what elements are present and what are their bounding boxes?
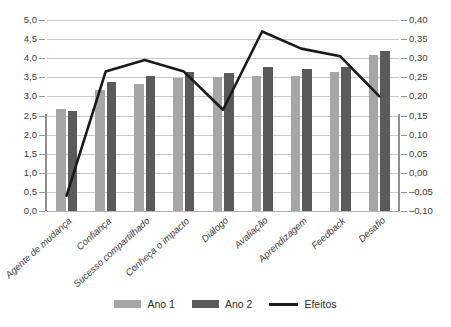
category-label: Diálogo — [199, 215, 230, 245]
right-axis-tick-label: 0,40 — [409, 15, 428, 25]
bar-ano-1 — [213, 77, 223, 211]
left-axis-tick-label: 2,5 — [24, 111, 37, 121]
legend-label: Ano 1 — [147, 299, 174, 310]
right-axis-tick-mark — [401, 39, 407, 40]
left-axis-tick-mark — [39, 135, 45, 136]
bar-ano-2 — [224, 73, 234, 211]
legend-swatch-swatch-dark-gray — [192, 300, 219, 308]
legend-item[interactable]: Ano 2 — [192, 299, 252, 310]
left-axis-tick-mark — [39, 192, 45, 193]
right-axis-tick-label: 0,05 — [409, 149, 428, 159]
category-label: Avaliação — [232, 215, 270, 251]
category-label: Sucesso compartilhado — [71, 215, 152, 289]
right-axis-tick-label: 0,15 — [409, 111, 428, 121]
bar-ano-2 — [68, 111, 78, 211]
bar-ano-2 — [185, 72, 195, 211]
left-axis-tick-mark — [39, 77, 45, 78]
right-axis-tick-label: 0,35 — [409, 34, 428, 44]
left-axis-tick-mark — [39, 39, 45, 40]
legend-swatch-swatch-light-gray — [114, 300, 141, 308]
category-label: Agente de mudança — [3, 215, 74, 280]
right-axis-tick-mark — [401, 135, 407, 136]
bar-ano-1 — [173, 78, 183, 211]
left-axis-tick-label: 4,0 — [24, 53, 37, 63]
chart-legend: Ano 1Ano 2Efeitos — [0, 296, 451, 312]
category-label: Confiança — [74, 215, 113, 252]
category-axis-labels: Agente de mudançaConfiançaSucesso compar… — [0, 211, 451, 295]
left-axis-tick-label: 3,0 — [24, 91, 37, 101]
right-axis-tick-mark — [401, 116, 407, 117]
right-axis-tick-label: 0,30 — [409, 53, 428, 63]
left-axis-tick-label: 2,0 — [24, 130, 37, 140]
legend-label: Ano 2 — [225, 299, 252, 310]
bar-ano-1 — [369, 55, 379, 211]
bar-ano-2 — [146, 76, 156, 211]
left-axis-tick-label: 5,0 — [24, 15, 37, 25]
bar-ano-1 — [330, 72, 340, 211]
bar-ano-1 — [56, 109, 66, 211]
bar-ano-2 — [380, 51, 390, 211]
right-axis-tick-label: 0,10 — [409, 130, 428, 140]
right-axis-tick-label: 0,25 — [409, 72, 428, 82]
chart-figure: 0,00,51,01,52,02,53,03,54,04,55,0 –0,10–… — [0, 0, 451, 327]
left-axis-tick-mark — [39, 173, 45, 174]
bar-ano-2 — [302, 69, 312, 211]
right-axis-tick-label: –0,05 — [409, 187, 433, 197]
left-axis-tick-label: 4,5 — [24, 34, 37, 44]
legend-item[interactable]: Efeitos — [269, 299, 336, 310]
right-axis-tick-label: 0,00 — [409, 168, 428, 178]
legend-swatch-line-black — [269, 303, 298, 306]
right-axis-tick-mark — [401, 154, 407, 155]
bar-ano-1 — [134, 84, 144, 211]
left-axis-tick-mark — [39, 20, 45, 21]
left-axis-tick-label: 1,5 — [24, 149, 37, 159]
bar-ano-1 — [252, 76, 262, 211]
bar-ano-2 — [107, 82, 117, 211]
right-axis-tick-mark — [401, 96, 407, 97]
left-axis-tick-label: 3,5 — [24, 72, 37, 82]
right-axis-tick-label: 0,20 — [409, 91, 428, 101]
bar-ano-1 — [291, 76, 301, 211]
left-axis-tick-label: 1,0 — [24, 168, 37, 178]
category-label: Feedback — [309, 215, 347, 251]
bar-ano-2 — [263, 67, 273, 211]
left-axis-tick-mark — [39, 116, 45, 117]
right-axis-tick-mark — [401, 77, 407, 78]
bar-ano-1 — [95, 90, 105, 211]
right-axis-tick-mark — [401, 20, 407, 21]
left-axis-tick-mark — [39, 154, 45, 155]
legend-label: Efeitos — [304, 299, 336, 310]
left-axis-tick-label: 0,5 — [24, 187, 37, 197]
bar-series-layer — [47, 20, 399, 211]
bar-ano-2 — [341, 67, 351, 211]
right-axis-tick-mark — [401, 58, 407, 59]
category-label: Desafio — [356, 215, 387, 245]
left-axis-tick-mark — [39, 58, 45, 59]
left-axis-tick-mark — [39, 96, 45, 97]
right-axis-tick-mark — [401, 192, 407, 193]
right-axis-tick-mark — [401, 173, 407, 174]
legend-item[interactable]: Ano 1 — [114, 299, 174, 310]
